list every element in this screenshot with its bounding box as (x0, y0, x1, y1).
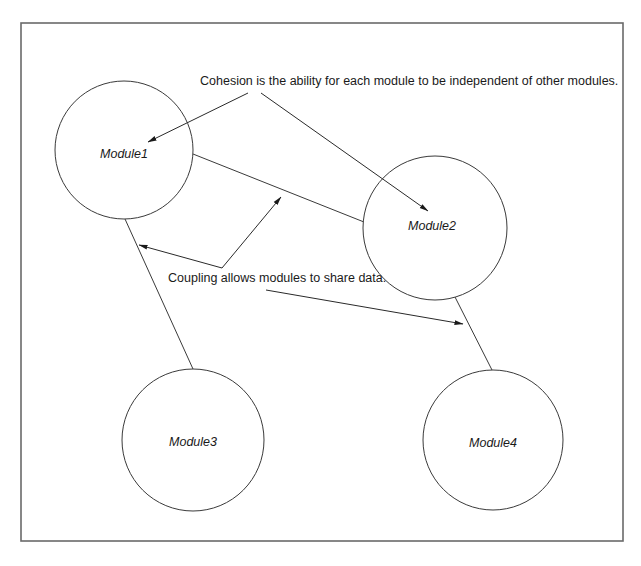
coupling-arrow-to-module1-module3-link (139, 245, 222, 268)
module-coupling-cohesion-diagram: Module1 Module2 Module3 Module4 Cohesion… (0, 0, 641, 566)
cohesion-text: Cohesion is the ability for each module … (200, 74, 618, 88)
coupling-text: Coupling allows modules to share data. (168, 271, 386, 285)
cohesion-arrow-to-module2 (261, 93, 428, 211)
module3-label: Module3 (169, 435, 217, 449)
module1-node: Module1 (55, 81, 193, 219)
connection-module1-module3 (125, 219, 193, 369)
connection-module2-module4 (455, 297, 492, 370)
coupling-arrow-to-module1-module2-link (222, 197, 281, 268)
connection-module1-module2 (193, 154, 364, 222)
module4-node: Module4 (423, 370, 563, 510)
module1-label: Module1 (100, 147, 148, 161)
module2-label: Module2 (408, 219, 456, 233)
module3-node: Module3 (122, 369, 264, 511)
module4-label: Module4 (469, 436, 517, 450)
